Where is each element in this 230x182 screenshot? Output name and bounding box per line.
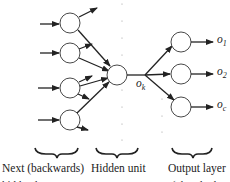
final-output-arrows	[191, 42, 213, 107]
dotted-guide	[121, 3, 162, 140]
hidden-node-2	[60, 43, 80, 63]
output-node-c	[171, 97, 191, 117]
output-node-1	[171, 32, 191, 52]
caption-hidden-unit: Hidden unit	[91, 162, 146, 174]
output-label-c: oc	[217, 98, 226, 113]
caption-output-layer: Output layer	[168, 162, 226, 174]
caption-right-line2: (already done)	[172, 178, 230, 182]
output-layer	[171, 32, 191, 117]
output-label-1: o1	[217, 33, 227, 48]
hidden-output-label: ok	[136, 77, 145, 92]
brace-middle	[96, 148, 138, 158]
hidden-node-1	[60, 13, 80, 33]
output-label-2: o2	[217, 65, 227, 80]
brace-right	[172, 148, 212, 158]
hidden-unit-node	[107, 65, 127, 85]
fanout-arrows	[77, 8, 97, 130]
caption-next-hidden-layer: Next (backwards)	[2, 162, 84, 174]
network-diagram	[0, 0, 230, 182]
converging-arrows	[77, 30, 110, 113]
braces	[35, 148, 212, 158]
hidden-node-3	[60, 78, 80, 98]
caption-left-line2: hidden layer	[2, 178, 57, 182]
brace-left	[35, 148, 78, 158]
output-arrows	[145, 46, 174, 100]
input-arrows	[38, 24, 59, 120]
output-node-2	[171, 64, 191, 84]
